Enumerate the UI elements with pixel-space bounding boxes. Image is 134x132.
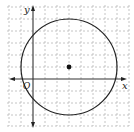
y-axis xyxy=(31,5,35,128)
x-axis-arrow-left-icon xyxy=(9,77,15,81)
y-axis-label: y xyxy=(23,4,30,15)
x-axis-label: x xyxy=(122,80,128,91)
y-axis-arrow-up-icon xyxy=(31,5,35,11)
coordinate-plane-figure: y x O xyxy=(0,0,134,132)
origin-label: O xyxy=(23,81,31,91)
circle-center-point xyxy=(67,65,72,70)
y-axis-arrow-down-icon xyxy=(31,122,35,128)
